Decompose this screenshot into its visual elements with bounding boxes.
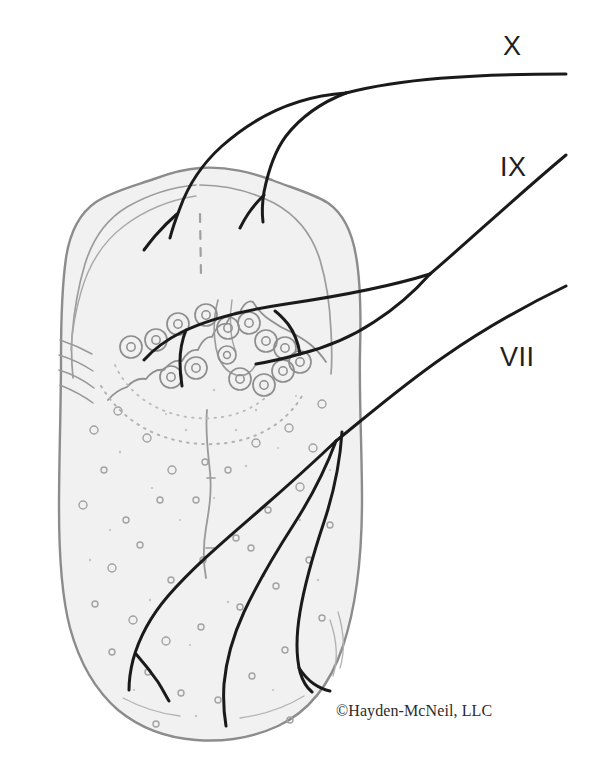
nerve-label-vagus: X bbox=[503, 33, 522, 60]
copyright-notice: ©Hayden-McNeil, LLC bbox=[336, 702, 492, 720]
tongue-body-group bbox=[59, 168, 362, 741]
nerve-label-glossopharyngeal: IX bbox=[500, 154, 527, 181]
nerve-ix-trunk bbox=[430, 155, 566, 274]
nerve-label-facial: VII bbox=[500, 344, 535, 371]
nerve-x-trunk bbox=[346, 74, 566, 93]
diagram-canvas: X IX VII ©Hayden-McNeil, LLC bbox=[0, 0, 590, 774]
tongue-innervation-svg bbox=[0, 0, 590, 774]
tongue-outline bbox=[59, 168, 362, 741]
